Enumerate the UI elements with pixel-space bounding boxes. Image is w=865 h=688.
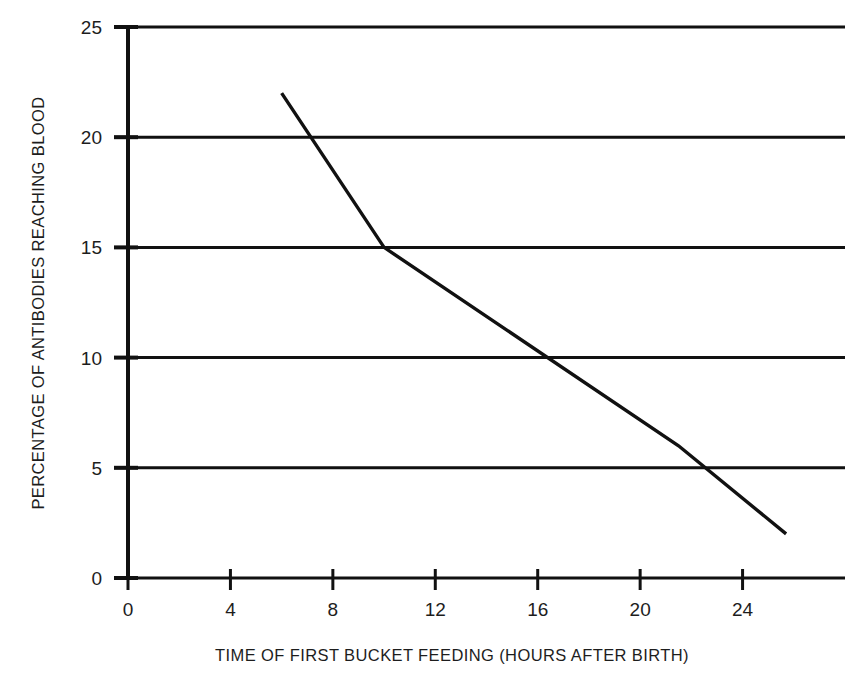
x-tick-label-20: 20 xyxy=(630,599,651,620)
x-tick-label-12: 12 xyxy=(425,599,446,620)
x-axis-title: TIME OF FIRST BUCKET FEEDING (HOURS AFTE… xyxy=(215,646,689,664)
y-tick-label-10: 10 xyxy=(81,348,102,369)
x-tick-label-16: 16 xyxy=(527,599,548,620)
x-tick-label-4: 4 xyxy=(225,599,236,620)
antibody-decay-line-chart: 0510152025 04812162024 PERCENTAGE OF ANT… xyxy=(0,0,865,688)
y-tick-label-5: 5 xyxy=(91,458,102,479)
x-tick-label-8: 8 xyxy=(328,599,339,620)
y-tick-label-20: 20 xyxy=(81,127,102,148)
x-tick-label-24: 24 xyxy=(732,599,754,620)
y-tick-label-25: 25 xyxy=(81,17,102,38)
x-tick-label-0: 0 xyxy=(123,599,134,620)
chart-container: 0510152025 04812162024 PERCENTAGE OF ANT… xyxy=(0,0,865,688)
y-tick-label-15: 15 xyxy=(81,237,102,258)
y-axis-title: PERCENTAGE OF ANTIBODIES REACHING BLOOD xyxy=(29,96,47,509)
y-tick-label-0: 0 xyxy=(91,568,102,589)
